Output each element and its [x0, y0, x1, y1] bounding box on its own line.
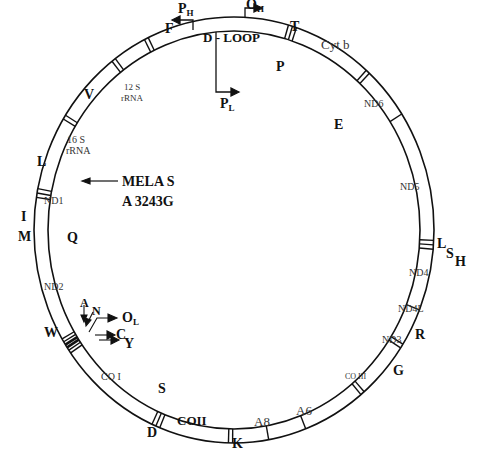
outer-ring: [34, 17, 434, 443]
gene-nd4: ND4: [409, 268, 428, 278]
trna-s: S: [158, 382, 166, 396]
trna-a: A: [80, 297, 89, 309]
trna-e: E: [334, 118, 343, 132]
gene-12s-line2: rRNA: [121, 94, 143, 103]
trna-v: V: [84, 88, 94, 102]
oh-main: O: [246, 0, 257, 12]
ph-sub: H: [187, 8, 194, 18]
trna-l-right: L: [437, 237, 446, 251]
trna-f: F: [165, 22, 174, 36]
gene-nd6: ND6: [364, 99, 383, 109]
label-oh: OH: [246, 0, 264, 14]
gene-nd2: ND2: [44, 282, 63, 292]
ph-main: P: [178, 1, 187, 16]
label-ph: PH: [178, 2, 194, 18]
oh-sub: H: [257, 4, 264, 14]
gene-a6: A6: [296, 404, 312, 417]
separator-line: [390, 114, 402, 122]
trna-p: P: [276, 60, 285, 74]
separator-line: [360, 73, 369, 83]
trna-l-left: L: [37, 155, 46, 169]
gene-nd5: ND5: [400, 182, 419, 192]
gene-nd3: ND3: [382, 335, 401, 345]
separator-line: [419, 248, 433, 249]
pl-main: P: [220, 96, 229, 111]
trna-y: Y: [124, 337, 134, 351]
trna-w: W: [44, 326, 58, 340]
trna-d: D: [147, 426, 157, 440]
pl-sub: L: [229, 103, 235, 113]
trna-k: K: [232, 437, 243, 451]
separator-line: [38, 189, 52, 192]
mutation-line1: MELA S: [122, 175, 175, 189]
separator-line: [71, 345, 82, 353]
trna-t: T: [290, 20, 299, 34]
separator-line: [285, 25, 289, 38]
gene-nd4l: ND4L: [398, 304, 424, 314]
trna-n: N: [92, 305, 101, 317]
separator-line: [420, 240, 434, 241]
gene-co3: CO III: [345, 373, 366, 381]
mutation-line2: A 3243G: [122, 195, 174, 209]
gene-nd1: ND1: [44, 196, 63, 206]
trna-q: Q: [67, 231, 78, 245]
gene-cytb: Cyt b: [321, 38, 350, 51]
trna-s-right: S: [446, 247, 454, 261]
gene-16s-line2: rRNA: [66, 146, 90, 156]
gene-a8: A8: [254, 415, 270, 428]
trna-m: M: [18, 230, 31, 244]
separator-line: [62, 332, 74, 339]
gene-16s-line1: 16 S: [67, 135, 85, 145]
gene-separators: [36, 25, 433, 443]
separator-line: [357, 70, 366, 81]
ol-sub: L: [133, 317, 139, 327]
trna-i: I: [21, 210, 26, 224]
trna-g: G: [393, 364, 404, 378]
ol-main: O: [122, 310, 133, 325]
trna-h: H: [455, 255, 466, 269]
label-ol: OL: [122, 311, 139, 327]
trna-r: R: [415, 328, 425, 342]
label-pl: PL: [220, 97, 235, 113]
gene-co1: CO I: [101, 372, 121, 382]
separator-line: [420, 244, 434, 245]
mutation-arrow-icon: [82, 178, 118, 184]
gene-dloop: D - LOOP: [203, 31, 260, 44]
gene-12s-line1: 12 S: [124, 83, 140, 92]
gene-co2: COII: [177, 414, 207, 427]
